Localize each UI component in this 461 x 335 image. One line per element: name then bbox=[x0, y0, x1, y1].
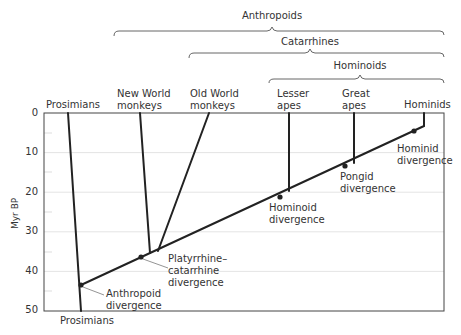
taxon-lesser-apes-line2: apes bbox=[277, 100, 301, 112]
node-label-hominoid-1: Hominoid bbox=[269, 202, 317, 214]
taxon-prosimians: Prosimians bbox=[46, 99, 100, 111]
taxon-hominids: Hominids bbox=[404, 99, 451, 111]
node-label-anthropoid-1: Anthropoid bbox=[106, 288, 161, 300]
lineages bbox=[68, 113, 424, 311]
group-label-catarrhines: Catarrhines bbox=[270, 36, 350, 48]
y-tick-30: 30 bbox=[20, 225, 38, 236]
taxon-new-world-line1: New World bbox=[117, 88, 171, 100]
y-tick-0: 0 bbox=[20, 107, 38, 118]
phylogeny-diagram bbox=[0, 0, 461, 335]
taxon-prosimians-bottom: Prosimians bbox=[60, 315, 114, 327]
node-label-platy-3: divergence bbox=[168, 277, 224, 289]
y-tick-40: 40 bbox=[20, 265, 38, 276]
node-label-hominid-1: Hominid bbox=[397, 143, 439, 155]
node-label-hominoid-2: divergence bbox=[269, 214, 325, 226]
taxon-great-apes-line1: Great bbox=[342, 88, 370, 100]
y-tick-10: 10 bbox=[20, 146, 38, 157]
node-label-platy-1: Platyrrhine– bbox=[168, 253, 227, 265]
group-label-anthropoids: Anthropoids bbox=[232, 10, 312, 22]
node-label-pongid-2: divergence bbox=[340, 183, 396, 195]
taxon-old-world-line2: monkeys bbox=[190, 100, 235, 112]
node-label-pongid-1: Pongid bbox=[340, 171, 374, 183]
plot-frame bbox=[44, 113, 444, 311]
taxon-old-world-line1: Old World bbox=[190, 88, 239, 100]
node-label-anthropoid-2: divergence bbox=[106, 300, 162, 312]
group-label-hominoids: Hominoids bbox=[320, 60, 400, 72]
node-label-hominid-2: divergence bbox=[397, 155, 453, 167]
taxon-new-world-line2: monkeys bbox=[117, 100, 162, 112]
taxon-great-apes-line2: apes bbox=[342, 100, 366, 112]
node-label-platy-2: catarrhine bbox=[168, 265, 219, 277]
y-tick-50: 50 bbox=[20, 304, 38, 315]
taxon-lesser-apes-line1: Lesser bbox=[277, 88, 309, 100]
y-axis-label: Myr BP bbox=[10, 198, 20, 229]
y-tick-20: 20 bbox=[20, 186, 38, 197]
gridlines bbox=[44, 153, 444, 272]
